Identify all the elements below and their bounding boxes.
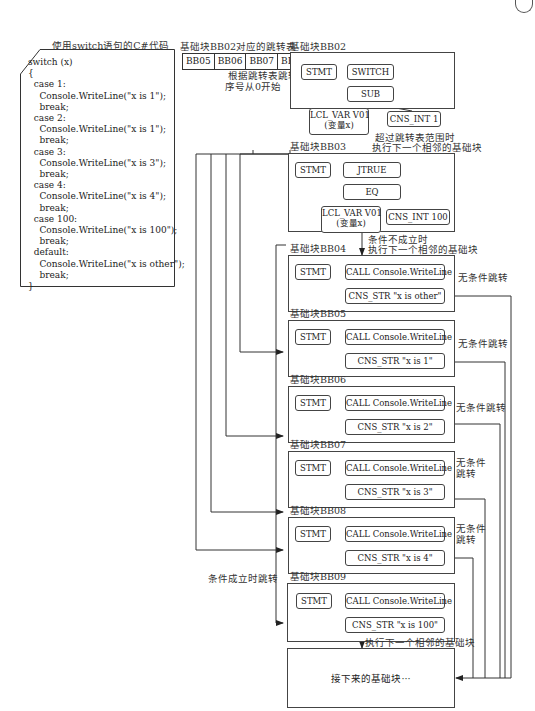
call-node: CALL Console.WriteLine (345, 329, 445, 345)
stmt-node: STMT (296, 593, 332, 609)
stmt-node: STMT (295, 264, 331, 280)
call-node: CALL Console.WriteLine (345, 593, 445, 609)
block-bb02: STMT SWITCH SUB LCL_VAR V01(变量x) CNS_INT… (290, 52, 455, 109)
str-node: CNS_STR "x is other" (345, 288, 445, 304)
bb07-title: 基础块BB07 (290, 439, 346, 450)
jump-entry: BB07 (246, 54, 278, 69)
jump-label: 无条件跳转 (458, 272, 508, 283)
stmt-node: STMT (301, 64, 337, 80)
jump-label: 无条件 (456, 457, 486, 468)
stmt-node: STMT (295, 162, 331, 178)
block-bb06: STMT CALL Console.WriteLine CNS_STR "x i… (288, 386, 455, 443)
stmt-node: STMT (295, 460, 331, 476)
jump-table-title: 基础块BB02对应的跳转表 (180, 41, 296, 52)
call-node: CALL Console.WriteLine (345, 264, 445, 280)
bb03-title: 基础块BB03 (290, 141, 346, 152)
next-block-label: 接下来的基础块··· (331, 671, 410, 685)
str-node: CNS_STR "x is 1" (345, 353, 445, 369)
edge-label: 执行下一个相邻的基础块 (372, 142, 482, 153)
bb02-title: 基础块BB02 (290, 41, 346, 52)
page-corner-mark (515, 0, 533, 13)
block-bb03: STMT JTRUE EQ LCL_VAR V01(变量x) CNS_INT 1… (288, 153, 455, 232)
cnsint-node: CNS_INT 1 (387, 111, 441, 127)
switch-node: SWITCH (347, 64, 394, 80)
jump-entry: BB05 (183, 54, 215, 69)
jump-note-1: 根据跳转表跳转 (228, 70, 298, 81)
stmt-node: STMT (295, 395, 331, 411)
call-node: CALL Console.WriteLine (345, 526, 445, 542)
str-node: CNS_STR "x is 4" (345, 550, 445, 566)
jump-label: 无条件跳转 (458, 338, 508, 349)
sub-node: SUB (347, 86, 394, 102)
next-block: 接下来的基础块··· (287, 648, 455, 708)
lclvar-node: LCL_VAR V01(变量x) (321, 206, 381, 233)
bb09-title: 基础块BB09 (290, 571, 346, 582)
bb06-title: 基础块BB06 (290, 374, 346, 385)
str-node: CNS_STR "x is 3" (345, 484, 445, 500)
bb05-title: 基础块BB05 (290, 308, 346, 319)
stmt-node: STMT (295, 526, 331, 542)
jtrue-node: JTRUE (343, 162, 401, 178)
edge-label: 条件成立时跳转 (208, 573, 278, 584)
call-node: CALL Console.WriteLine (345, 395, 445, 411)
lclvar-node: LCL_VAR V01(变量x) (309, 108, 369, 135)
cnsint-node: CNS_INT 100 (386, 209, 450, 225)
block-bb09: STMT CALL Console.WriteLine CNS_STR "x i… (287, 583, 455, 642)
block-bb05: STMT CALL Console.WriteLine CNS_STR "x i… (288, 320, 455, 377)
jump-label: 跳转 (456, 468, 476, 479)
bb04-title: 基础块BB04 (290, 243, 346, 254)
bb08-title: 基础块BB08 (290, 505, 346, 516)
edge-label: 执行下一个相邻的基础块 (365, 637, 475, 648)
jump-note-2: 序号从0开始 (225, 81, 281, 92)
call-node: CALL Console.WriteLine (345, 460, 445, 476)
edge-label: 执行下一个相邻的基础块 (368, 244, 478, 255)
stmt-node: STMT (295, 329, 331, 345)
str-node: CNS_STR "x is 2" (345, 419, 445, 435)
jump-label: 跳转 (456, 534, 476, 545)
block-bb04: STMT CALL Console.WriteLine CNS_STR "x i… (288, 255, 455, 312)
block-bb07: STMT CALL Console.WriteLine CNS_STR "x i… (288, 451, 455, 508)
block-bb08: STMT CALL Console.WriteLine CNS_STR "x i… (288, 517, 455, 574)
str-node: CNS_STR "x is 100" (345, 617, 445, 633)
code-panel: switch (x) { case 1: Console.WriteLine("… (20, 49, 175, 287)
jump-label: 无条件跳转 (456, 402, 506, 413)
eq-node: EQ (343, 184, 401, 200)
jump-label: 无条件 (456, 523, 486, 534)
jump-entry: BB06 (215, 54, 247, 69)
code-listing: switch (x) { case 1: Console.WriteLine("… (28, 57, 185, 292)
